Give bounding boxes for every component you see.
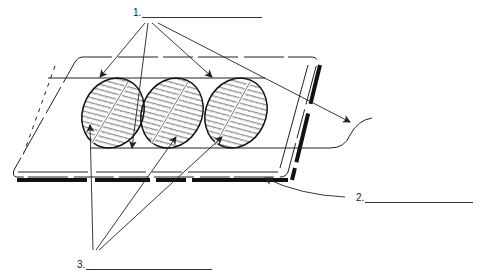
- label-3: 3.: [77, 259, 212, 270]
- label-3-number: 3.: [77, 259, 85, 270]
- label-2-blank[interactable]: [365, 194, 473, 203]
- label-1-number: 1.: [133, 7, 141, 18]
- label-2: 2.: [356, 192, 473, 203]
- label-2-number: 2.: [356, 192, 364, 203]
- smear-3: [194, 68, 279, 159]
- smear-2: [130, 68, 215, 159]
- slide-diagram: [0, 0, 487, 278]
- label-1-blank[interactable]: [142, 9, 262, 18]
- label-1: 1.: [133, 7, 262, 18]
- label-3-blank[interactable]: [86, 261, 212, 270]
